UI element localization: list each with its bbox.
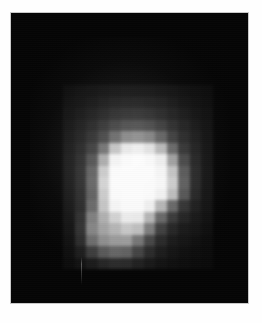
image-plate <box>11 13 248 303</box>
heatmap-cell <box>75 143 87 155</box>
heatmap-cell <box>109 108 121 120</box>
heatmap-cell <box>178 97 190 109</box>
heatmap-cell <box>98 258 110 270</box>
heatmap-cell <box>121 258 133 270</box>
heatmap-cell <box>190 97 202 109</box>
heatmap-cell <box>144 108 156 120</box>
heatmap-cell <box>178 131 190 143</box>
heatmap-cell <box>178 200 190 212</box>
heatmap-cell <box>75 212 87 224</box>
heatmap-cell <box>98 189 110 201</box>
heatmap-cell <box>155 189 167 201</box>
heatmap-cell <box>144 189 156 201</box>
heatmap-cell <box>178 235 190 247</box>
heatmap-cell <box>201 131 213 143</box>
heatmap-cell <box>86 189 98 201</box>
heatmap-cell <box>75 85 87 97</box>
heatmap-cell <box>155 212 167 224</box>
heatmap-cell <box>144 131 156 143</box>
heatmap-cell <box>167 97 179 109</box>
heatmap-cell <box>132 143 144 155</box>
heatmap-cell <box>63 223 75 235</box>
heatmap-cell <box>109 120 121 132</box>
heatmap-cell <box>167 258 179 270</box>
heatmap-cell <box>155 166 167 178</box>
heatmap-cell <box>178 143 190 155</box>
heatmap-cell <box>75 200 87 212</box>
heatmap-cell <box>144 235 156 247</box>
heatmap-cell <box>86 258 98 270</box>
heatmap-cell <box>121 223 133 235</box>
figure-root <box>0 0 262 323</box>
heatmap-cell <box>155 85 167 97</box>
heatmap-cell <box>201 166 213 178</box>
heatmap-cell <box>155 258 167 270</box>
heatmap-cell <box>121 246 133 258</box>
heatmap-cell <box>201 235 213 247</box>
heatmap-cell <box>132 131 144 143</box>
heatmap-cell <box>98 223 110 235</box>
heatmap-cell <box>86 154 98 166</box>
heatmap-cell <box>144 246 156 258</box>
heatmap-cell <box>75 97 87 109</box>
heatmap-cell <box>155 97 167 109</box>
heatmap-cell <box>63 246 75 258</box>
heatmap-cell <box>86 120 98 132</box>
heatmap-cell <box>155 108 167 120</box>
image-frame <box>10 12 249 304</box>
heatmap-cell <box>98 154 110 166</box>
heatmap-cell <box>132 97 144 109</box>
heatmap-cell <box>63 212 75 224</box>
heatmap-cell <box>201 258 213 270</box>
heatmap-cell <box>132 223 144 235</box>
heatmap-cell <box>201 212 213 224</box>
heatmap-cell <box>109 85 121 97</box>
heatmap-cell <box>190 258 202 270</box>
heatmap-cell <box>144 200 156 212</box>
heatmap-cell <box>63 189 75 201</box>
heatmap-cell <box>201 120 213 132</box>
diffuse-halo <box>30 37 230 267</box>
heatmap-cell <box>167 143 179 155</box>
heatmap-cell <box>178 120 190 132</box>
heatmap-cell <box>167 120 179 132</box>
heatmap-cell <box>98 212 110 224</box>
heatmap-cell <box>190 85 202 97</box>
heatmap-cell <box>132 120 144 132</box>
heatmap-cell <box>155 246 167 258</box>
heatmap-cell <box>167 223 179 235</box>
heatmap-cell <box>155 154 167 166</box>
heatmap-cell <box>63 200 75 212</box>
heatmap-cell <box>178 212 190 224</box>
heatmap-cell <box>178 177 190 189</box>
heatmap-cell <box>144 223 156 235</box>
heatmap-cell <box>75 235 87 247</box>
heatmap-cell <box>109 154 121 166</box>
heatmap-cell <box>98 108 110 120</box>
heatmap-cell <box>178 108 190 120</box>
heatmap-cell <box>121 85 133 97</box>
heatmap-cell <box>167 200 179 212</box>
heatmap-cell <box>86 200 98 212</box>
heatmap-cell <box>144 85 156 97</box>
heatmap-cell <box>75 223 87 235</box>
heatmap-cell <box>86 131 98 143</box>
heatmap-cell <box>63 154 75 166</box>
heatmap-cell <box>178 85 190 97</box>
heatmap-cell <box>201 177 213 189</box>
heatmap-cell <box>144 212 156 224</box>
heatmap-cell <box>109 143 121 155</box>
heatmap-cell <box>121 154 133 166</box>
heatmap-cell <box>167 246 179 258</box>
heatmap-cell <box>109 223 121 235</box>
heatmap-cell <box>190 120 202 132</box>
heatmap-cell <box>86 97 98 109</box>
heatmap-cell <box>201 97 213 109</box>
heatmap-cell <box>121 177 133 189</box>
heatmap-cell <box>201 85 213 97</box>
heatmap-cell <box>109 235 121 247</box>
heatmap-cell <box>144 166 156 178</box>
heatmap-cell <box>86 85 98 97</box>
heatmap-cell <box>201 143 213 155</box>
heatmap-cell <box>75 246 87 258</box>
